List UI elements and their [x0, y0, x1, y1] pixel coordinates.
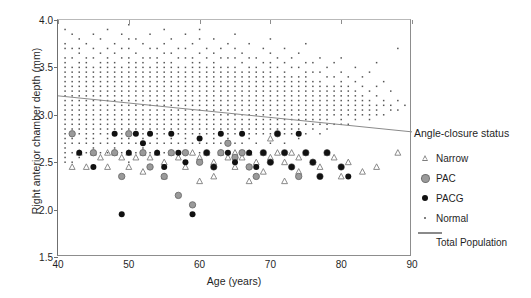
- y-tick-mark: [54, 162, 58, 163]
- y-tick-mark: [54, 115, 58, 116]
- x-tick-label: 80: [336, 259, 347, 270]
- x-tick-mark: [412, 20, 413, 24]
- y-tick-mark: [54, 67, 58, 68]
- x-tick-label: 70: [265, 259, 276, 270]
- x-tick-mark: [200, 20, 201, 24]
- legend-trendline-label: Total Population: [414, 237, 531, 248]
- legend-item-narrow: Narrow: [414, 148, 531, 168]
- y-tick-label: 2.5: [39, 157, 53, 168]
- legend-items: NarrowPACPACGNormal: [414, 148, 531, 228]
- open-triangle-icon: [414, 155, 436, 161]
- legend-item-label: PACG: [436, 193, 464, 204]
- x-tick-mark: [341, 20, 342, 24]
- scatter-plot-figure: Right anterior chamber depth (mm) 1.52.0…: [0, 0, 531, 298]
- tiny-dot-icon: [414, 217, 436, 219]
- legend-trendline-row: [414, 232, 531, 234]
- y-tick-mark: [54, 257, 58, 258]
- black-circle-icon: [422, 195, 428, 201]
- y-tick-label: 3.0: [39, 109, 53, 120]
- gray-circle-icon: [414, 175, 436, 182]
- legend-item-pacg: PACG: [414, 188, 531, 208]
- x-tick-mark: [129, 20, 130, 24]
- legend-item-label: PAC: [436, 173, 456, 184]
- plot-area: 1.52.02.53.03.54.0 405060708090: [57, 19, 411, 256]
- dot-icon: [424, 217, 426, 219]
- x-tick-label: 50: [123, 259, 134, 270]
- triangle-icon: [422, 155, 428, 161]
- gray-circle-icon: [422, 175, 429, 182]
- y-tick-label: 3.5: [39, 62, 53, 73]
- x-tick-mark: [270, 20, 271, 24]
- legend-title: Angle-closure status: [414, 127, 531, 139]
- legend-item-normal: Normal: [414, 208, 531, 228]
- black-circle-icon: [414, 195, 436, 201]
- data-canvas: [58, 20, 412, 257]
- x-tick-label: 60: [194, 259, 205, 270]
- trendline-swatch: [418, 232, 442, 234]
- x-tick-mark: [58, 20, 59, 24]
- legend-item-label: Normal: [436, 213, 468, 224]
- legend-item-label: Narrow: [436, 153, 468, 164]
- x-tick-label: 90: [406, 259, 417, 270]
- y-tick-label: 2.0: [39, 204, 53, 215]
- y-tick-label: 1.5: [39, 252, 53, 263]
- y-tick-label: 4.0: [39, 15, 53, 26]
- legend-item-pac: PAC: [414, 168, 531, 188]
- legend: Angle-closure status NarrowPACPACGNormal…: [414, 127, 531, 248]
- x-axis-title: Age (years): [57, 275, 411, 287]
- x-tick-label: 40: [52, 259, 63, 270]
- y-tick-mark: [54, 210, 58, 211]
